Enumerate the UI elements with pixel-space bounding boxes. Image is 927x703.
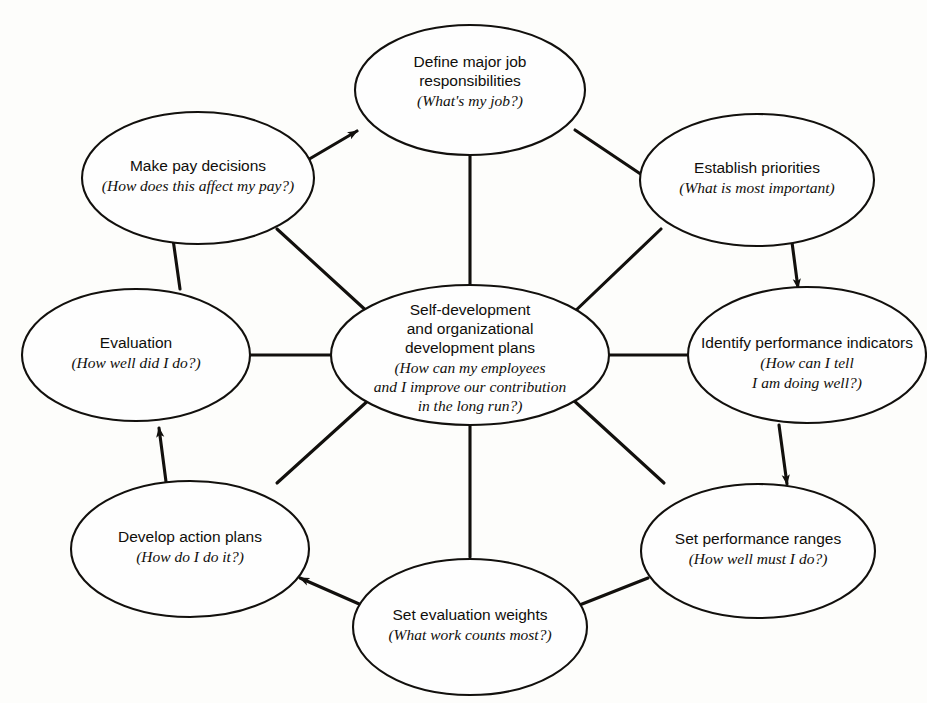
node-question-line-1: (What is most important) — [679, 179, 834, 197]
node-self-development-plans[interactable]: Self-development and organizational deve… — [331, 285, 609, 425]
performance-cycle-diagram: Self-development and organizational deve… — [0, 0, 927, 703]
node-set-evaluation-weights[interactable]: Set evaluation weights (What work counts… — [353, 559, 587, 695]
edge-set-evaluation-weights-to-develop-action-plans — [300, 578, 366, 607]
spoke-hub-to-establish-priorities — [571, 229, 661, 315]
node-question-line-1: (How well must I do?) — [689, 550, 828, 568]
edge-identify-performance-indicators-to-set-performance-ranges — [779, 425, 787, 484]
node-title-line-2: responsibilities — [419, 72, 521, 89]
node-question-line-1: (How do I do it?) — [136, 548, 244, 566]
node-question-line-1: (How well did I do?) — [71, 354, 200, 372]
spoke-hub-to-set-performance-ranges — [571, 398, 664, 483]
node-title-line-1: Identify performance indicators — [701, 334, 913, 351]
node-title-line-1: Develop action plans — [118, 528, 262, 545]
hub-title-line-3: development plans — [405, 339, 535, 356]
node-title-line-1: Set evaluation weights — [392, 606, 547, 623]
hub-question-line-3: in the long run?) — [418, 397, 523, 415]
node-question-line-1: (How can I tell — [760, 354, 853, 372]
hub-title-line-1: Self-development — [410, 301, 531, 318]
node-title-line-1: Establish priorities — [694, 159, 820, 176]
hub-question-line-1: (How can my employees — [394, 359, 545, 377]
spoke-hub-to-make-pay-decisions — [277, 229, 371, 315]
node-develop-action-plans[interactable]: Develop action plans (How do I do it?) — [71, 481, 309, 617]
node-question-line-1: (How does this affect my pay?) — [102, 177, 294, 195]
hub-question-line-2: and I improve our contribution — [374, 378, 567, 395]
node-set-performance-ranges[interactable]: Set performance ranges (How well must I … — [641, 484, 875, 618]
node-question-line-1: (What's my job?) — [417, 92, 523, 110]
node-define-major-job-responsibilities[interactable]: Define major job responsibilities (What'… — [355, 25, 585, 155]
node-question-line-1: (What work counts most?) — [388, 626, 551, 644]
node-make-pay-decisions[interactable]: Make pay decisions (How does this affect… — [82, 112, 314, 244]
node-title-line-1: Set performance ranges — [675, 530, 842, 547]
diagram-canvas: Self-development and organizational deve… — [0, 0, 927, 703]
node-title-line-1: Evaluation — [100, 334, 172, 351]
node-establish-priorities[interactable]: Establish priorities (What is most impor… — [640, 114, 874, 246]
hub-title-line-2: and organizational — [407, 320, 534, 337]
edge-set-performance-ranges-to-set-evaluation-weights — [572, 578, 648, 608]
node-title-line-1: Make pay decisions — [130, 157, 266, 174]
node-identify-performance-indicators[interactable]: Identify performance indicators (How can… — [688, 287, 926, 423]
node-evaluation[interactable]: Evaluation (How well did I do?) — [22, 289, 250, 421]
node-title-line-1: Define major job — [414, 53, 527, 70]
node-ellipse-shape — [355, 25, 585, 155]
node-question-line-2: I am doing well?) — [751, 374, 862, 392]
spoke-hub-to-develop-action-plans — [277, 398, 371, 483]
